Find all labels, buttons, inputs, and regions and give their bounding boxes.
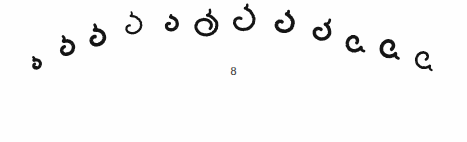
- spiral-glyph-7-stroke: [234, 7, 256, 31]
- spiral-glyph-11: [378, 38, 404, 62]
- figure-page: 8: [0, 0, 467, 142]
- spiral-glyph-6: [196, 9, 218, 35]
- spiral-glyph-9: [312, 16, 334, 42]
- spiral-glyph-6-tail: [207, 10, 210, 16]
- spiral-glyph-11-tail: [394, 54, 399, 59]
- spiral-glyph-4: [123, 11, 143, 35]
- spiral-glyph-9-stroke: [312, 21, 332, 41]
- spiral-glyph-2-stroke: [58, 38, 76, 56]
- spiral-glyph-10: [345, 35, 368, 56]
- spiral-glyph-5-tail: [170, 15, 171, 17]
- spiral-glyph-4-stroke: [124, 14, 143, 34]
- spiral-glyph-7-tail: [245, 5, 247, 9]
- spiral-glyph-3-tail: [93, 25, 97, 30]
- spiral-glyph-3: [86, 23, 106, 46]
- spiral-glyph-3-stroke: [88, 28, 106, 47]
- spiral-glyph-5-stroke: [166, 16, 178, 30]
- spiral-glyph-7: [234, 3, 256, 31]
- spiral-glyph-2: [56, 34, 76, 56]
- spiral-glyph-6-stroke: [196, 15, 218, 36]
- spiral-glyph-4-tail: [130, 12, 132, 16]
- page-number: 8: [0, 65, 467, 77]
- spiral-glyph-9-tail: [325, 19, 330, 25]
- spiral-glyph-8-tail: [287, 11, 289, 14]
- spiral-glyph-5: [165, 15, 178, 31]
- spiral-glyph-8-stroke: [275, 12, 295, 33]
- spiral-glyph-8: [275, 9, 295, 33]
